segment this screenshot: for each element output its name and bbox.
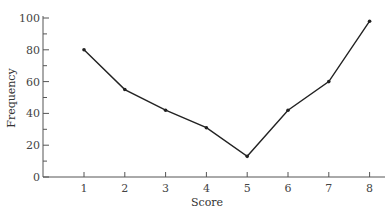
data-point [327,80,331,84]
x-tick-label: 8 [366,182,373,195]
x-tick-label: 7 [325,182,332,195]
y-tick-label: 60 [26,76,40,89]
x-tick-label: 5 [244,182,251,195]
x-tick-label: 4 [203,182,210,195]
y-tick-label: 0 [33,171,40,184]
data-point [205,126,209,130]
y-axis-title: Frequency [5,67,18,127]
x-axis: 12345678 [43,172,385,195]
x-tick-label: 2 [121,182,128,195]
data-point [368,19,372,23]
line-chart: 020406080100 12345678 Score Frequency [0,0,388,213]
data-point [82,48,86,52]
y-axis: 020406080100 [19,12,49,184]
x-tick-label: 6 [285,182,292,195]
y-tick-label: 80 [26,44,40,57]
data-point [123,88,127,92]
series-line [84,21,370,156]
x-tick-label: 1 [81,182,88,195]
x-tick-label: 3 [162,182,169,195]
y-tick-label: 20 [26,139,40,152]
plot-area [82,19,371,158]
data-point [245,155,249,159]
y-tick-label: 100 [19,12,40,25]
data-point [286,108,290,112]
x-axis-title: Score [191,196,223,209]
y-tick-label: 40 [26,107,40,120]
data-point [164,108,168,112]
